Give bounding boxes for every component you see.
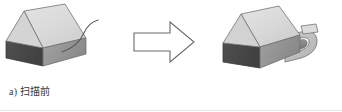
before-illustration bbox=[0, 2, 130, 84]
process-arrow bbox=[132, 20, 196, 64]
panel-before-scanning: a) 扫描前 bbox=[0, 0, 130, 112]
arrow-right-icon bbox=[132, 20, 196, 64]
specimen-block-before-svg bbox=[0, 2, 130, 84]
scanner-sensor-head bbox=[301, 24, 318, 34]
caption-before-scanning: a) 扫描前 bbox=[9, 86, 50, 98]
arrow-right-shape bbox=[134, 22, 194, 62]
scanning-process-figure: a) 扫描前 bbox=[0, 0, 342, 112]
specimen-block-after-svg bbox=[215, 2, 342, 84]
after-illustration bbox=[215, 2, 342, 84]
panel-after-scanning: b) 扫描后 bbox=[215, 0, 342, 112]
bottom-rule bbox=[0, 110, 342, 111]
